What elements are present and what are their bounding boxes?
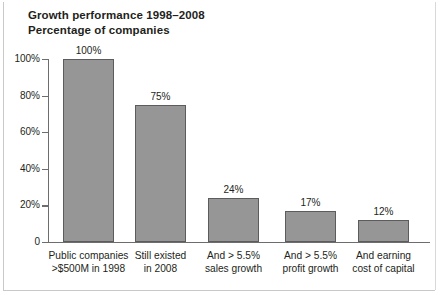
y-axis-tick-label: 60% (0, 127, 40, 137)
bar-value-label: 17% (275, 198, 346, 208)
chart-title: Growth performance 1998–2008 (28, 9, 205, 21)
bar-value-label: 24% (198, 185, 269, 195)
y-axis-tick-label: 100% (0, 54, 40, 64)
y-axis-tick-mark (42, 169, 48, 170)
bar (63, 59, 114, 242)
bar-value-label: 75% (125, 92, 196, 102)
bar-value-label: 12% (348, 207, 419, 217)
y-axis-tick-label: 20% (0, 200, 40, 210)
y-axis-line (48, 59, 49, 243)
y-axis-tick-mark (42, 205, 48, 206)
category-label-line: cost of capital (339, 262, 429, 275)
y-axis-tick-mark (42, 132, 48, 133)
x-axis-line (48, 242, 430, 243)
y-axis-tick-label: 40% (0, 164, 40, 174)
figure-frame-bottom-rule (3, 290, 435, 291)
y-axis-tick-mark (42, 59, 48, 60)
category-label-line: And earning (339, 249, 429, 262)
bar-value-label: 100% (53, 46, 124, 56)
y-axis-tick-label: 0 (0, 237, 40, 247)
bar (208, 198, 259, 242)
bar (285, 211, 336, 242)
y-axis-tick-labels: 100%80%60%40%20%0 (0, 0, 40, 295)
chart-subtitle: Percentage of companies (28, 24, 170, 36)
chart-figure: Growth performance 1998–2008 Percentage … (0, 0, 445, 295)
y-axis-tick-mark (42, 96, 48, 97)
y-axis-tick-mark (42, 242, 48, 243)
bar (135, 105, 186, 242)
x-axis-category-label: And earningcost of capital (339, 249, 429, 275)
y-axis-tick-label: 80% (0, 91, 40, 101)
bar (358, 220, 409, 242)
figure-frame-right-rule (435, 2, 436, 290)
